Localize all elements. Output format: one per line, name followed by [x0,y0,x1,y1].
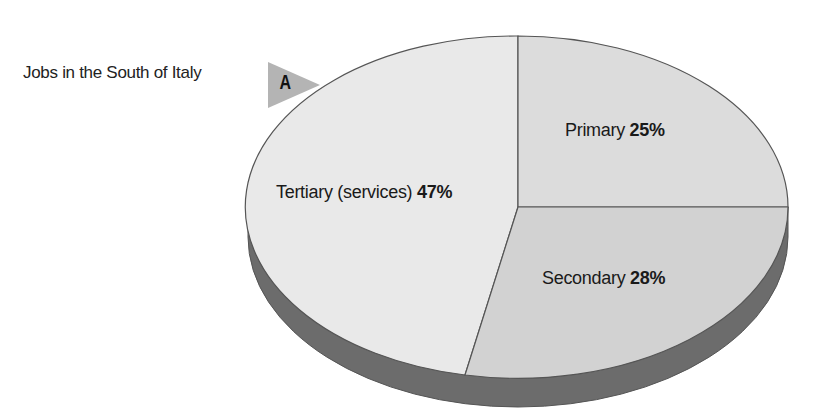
slice-secondary [465,207,788,378]
label-primary: Primary 25% [565,120,665,141]
label-tertiary: Tertiary (services) 47% [276,182,452,203]
label-secondary: Secondary 28% [542,268,665,289]
pie-chart [0,0,820,416]
